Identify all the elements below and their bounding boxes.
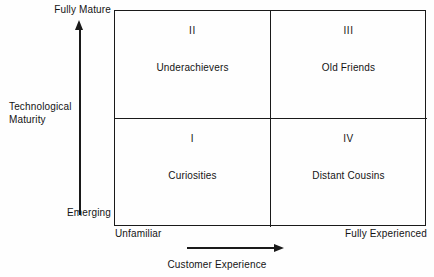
x-axis-max-tick-label: Fully Experienced — [0, 228, 427, 239]
x-axis-arrowhead-icon — [274, 244, 284, 252]
quadrant-matrix-figure: Fully Mature Emerging Technological Matu… — [0, 0, 434, 277]
y-axis-max-tick-label: Fully Mature — [0, 4, 111, 15]
y-axis-line — [79, 28, 81, 215]
quadrant-cell-distant-cousins: IV Distant Cousins — [271, 119, 426, 226]
y-axis-title-line2: Maturity — [9, 113, 72, 126]
matrix-box: II Underachievers III Old Friends I Curi… — [114, 10, 426, 226]
quadrant-numeral: IV — [343, 133, 354, 144]
quadrant-cell-underachievers: II Underachievers — [115, 11, 270, 118]
quadrant-numeral: I — [191, 133, 194, 144]
y-axis-title-line1: Technological — [9, 100, 72, 113]
quadrant-label: Underachievers — [156, 62, 228, 73]
y-axis-arrowhead-icon — [75, 20, 83, 30]
quadrant-cell-old-friends: III Old Friends — [271, 11, 426, 118]
quadrant-numeral: III — [343, 25, 353, 36]
quadrant-label: Distant Cousins — [312, 170, 384, 181]
x-axis-line — [187, 247, 276, 249]
quadrant-label: Old Friends — [322, 62, 375, 73]
quadrant-label: Curiosities — [168, 170, 216, 181]
quadrant-cell-curiosities: I Curiosities — [115, 119, 270, 226]
quadrant-numeral: II — [189, 25, 196, 36]
y-axis-title: Technological Maturity — [9, 100, 72, 126]
y-axis-min-tick-label: Emerging — [0, 207, 111, 218]
x-axis-title: Customer Experience — [0, 259, 434, 270]
